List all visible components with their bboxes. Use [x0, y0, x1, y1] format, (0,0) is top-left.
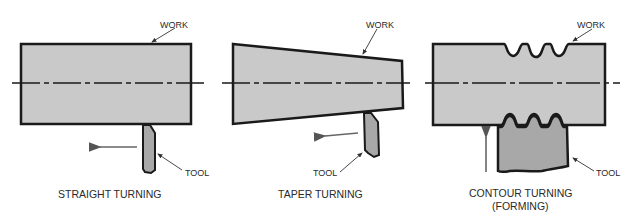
work-label: WORK — [577, 20, 605, 30]
work-label: WORK — [366, 20, 394, 30]
tool-leader — [158, 154, 182, 170]
work-leader — [573, 29, 592, 41]
work-label: WORK — [160, 20, 188, 30]
taper-turning-panel: WORK TOOL TAPER TURNING — [222, 20, 410, 200]
contour-turning-panel: WORK TOOL CONTOUR TURNING (FORMING) — [425, 20, 620, 212]
caption: STRAIGHT TURNING — [58, 188, 161, 200]
feed-arrow — [325, 133, 358, 136]
cutting-tool — [364, 113, 379, 157]
work-leader — [152, 28, 175, 42]
caption: CONTOUR TURNING — [469, 187, 572, 199]
tool-label: TOOL — [313, 168, 337, 178]
straight-turning-panel: WORK TOOL STRAIGHT TURNING — [12, 20, 209, 200]
tool-leader — [340, 153, 362, 172]
workpiece — [433, 44, 605, 125]
work-leader — [363, 29, 377, 54]
tool-label: TOOL — [185, 168, 209, 178]
workpiece — [233, 44, 403, 124]
cutting-tool — [143, 125, 155, 173]
caption-sub: (FORMING) — [492, 200, 549, 212]
tool-leader — [573, 158, 594, 171]
caption: TAPER TURNING — [278, 188, 363, 200]
turning-operations-diagram: WORK TOOL STRAIGHT TURNING WORK TOOL TAP… — [0, 0, 636, 217]
workpiece — [21, 44, 191, 124]
form-tool — [498, 116, 568, 172]
tool-label: TOOL — [596, 168, 620, 178]
